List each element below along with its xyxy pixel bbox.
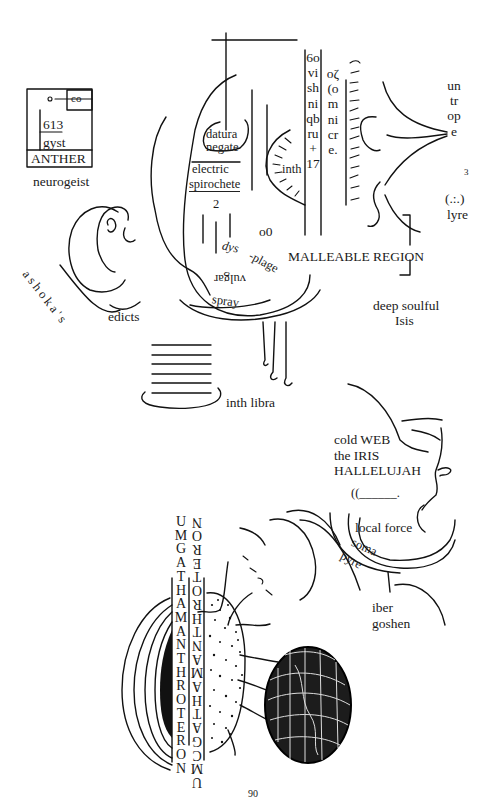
label-electric: electric	[192, 163, 229, 176]
label-spirochete: spirochete	[189, 178, 240, 192]
label-goshen: goshen	[372, 617, 410, 631]
label-isis: Isis	[395, 314, 414, 328]
vertical-column-umgathamanthroteron: UMGATHAMANTHROTERON	[173, 515, 189, 775]
label-inth: inth	[282, 163, 301, 176]
label-o0: o0	[259, 225, 273, 239]
label-datura: datura	[206, 128, 237, 141]
label-hallelujah: HALLELUJAH	[334, 464, 421, 478]
label-malleable-region: MALLEABLE REGION	[288, 250, 424, 264]
label-negate: negate	[206, 141, 239, 154]
anther-caption: neurogeist	[33, 175, 89, 189]
label-dys: dys	[221, 239, 240, 255]
anther-corner-label: co	[71, 93, 81, 104]
vertical-column-inverted: UMCGATHAMANTHROTERON	[189, 515, 205, 789]
page-number: 90	[248, 789, 258, 799]
left-arc	[151, 117, 210, 295]
label-dots-paren: (.:.)	[445, 192, 465, 206]
label-two: 2	[213, 198, 219, 211]
libra-stack-lines	[152, 345, 211, 393]
label-local-force: local force	[355, 521, 412, 535]
label-iber: iber	[372, 601, 393, 615]
label-the-iris: the IRIS	[334, 449, 379, 463]
vertical-column-omnicre: oζ(omnicre.	[326, 66, 340, 157]
label-vulgar-inverted: vulgar	[214, 272, 246, 285]
label-deep-soulful: deep soulful	[373, 299, 439, 313]
label-cold-web: cold WEB	[334, 433, 390, 447]
black-crescent	[160, 630, 172, 738]
central-outer-loop	[183, 75, 310, 316]
dark-patterned-oval	[265, 647, 351, 763]
vertical-column-untrope: untrope	[447, 78, 461, 139]
label-lyre: lyre	[447, 208, 468, 222]
label-inth-libra: inth libra	[226, 396, 275, 410]
label-blank-line: ((______.	[351, 487, 400, 500]
vertical-column-ovishni: 6ovishniqbru+17	[306, 50, 320, 172]
anther-word: gyst	[43, 136, 66, 150]
label-edicts: edicts	[108, 310, 140, 324]
anther-number: 613	[43, 118, 63, 132]
anther-footer: ANTHER	[31, 152, 86, 166]
superscript-three: 3	[464, 168, 469, 177]
